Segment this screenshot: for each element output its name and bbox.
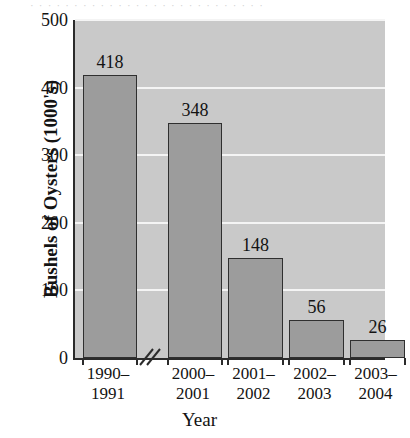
cropped-caption-strip: · · · · · · · · · · · · · · · · · · · · … — [30, 0, 380, 9]
x-axis-title: Year — [0, 409, 399, 431]
x-axis-label-line: 2004 — [331, 384, 410, 404]
gridline-500 — [75, 19, 385, 21]
x-axis-label-2003–2004: 2003–2004 — [331, 364, 410, 404]
x-axis-label-line: 1990– — [63, 364, 153, 384]
bar-2000–2001 — [168, 123, 222, 358]
bar-2003–2004 — [350, 340, 405, 358]
bar-2002–2003 — [289, 320, 344, 358]
plot-area: 4183481485626 — [73, 20, 385, 360]
bar-value-label-2003–2004: 26 — [350, 318, 405, 336]
bar-value-label-2000–2001: 348 — [168, 101, 222, 119]
x-axis-label-1990–1991: 1990–1991 — [63, 364, 153, 404]
x-axis-label-line: 1991 — [63, 384, 153, 404]
bar-value-label-1990–1991: 418 — [83, 53, 137, 71]
bar-1990–1991 — [83, 75, 137, 358]
bar-value-label-2002–2003: 56 — [289, 298, 344, 316]
bar-value-label-2001–2002: 148 — [228, 236, 283, 254]
y-axis-title: Bushels of Oysters (1000's) — [40, 24, 62, 354]
bar-2001–2002 — [228, 258, 283, 358]
x-axis-label-line: 2003– — [331, 364, 410, 384]
